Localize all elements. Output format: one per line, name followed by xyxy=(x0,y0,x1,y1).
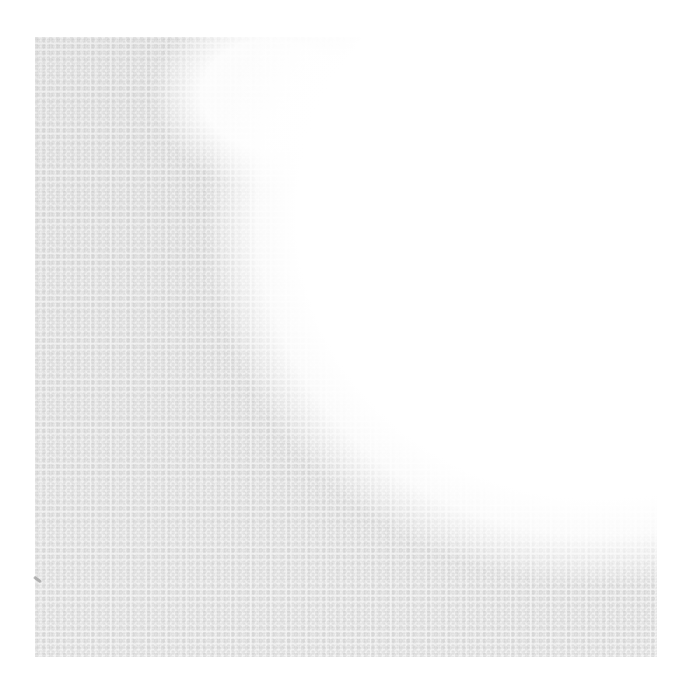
white-void-region xyxy=(210,20,689,580)
texture-canvas xyxy=(0,0,689,675)
